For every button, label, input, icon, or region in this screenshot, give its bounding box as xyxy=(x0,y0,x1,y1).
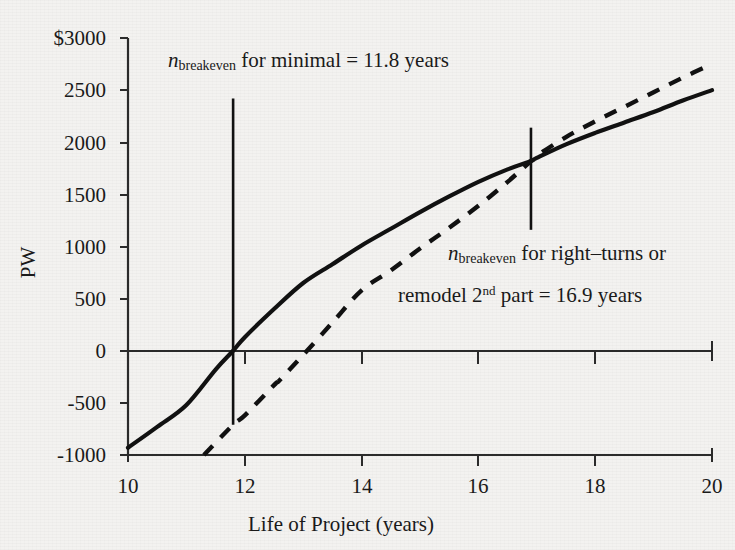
annotation2-line2-post: part = 16.9 years xyxy=(496,283,643,307)
annotation2-symbol-n: n xyxy=(448,241,459,265)
annotation-symbol-n: n xyxy=(168,48,179,72)
x-tick-label-14: 14 xyxy=(332,474,392,499)
annotation-subscript-breakeven: breakeven xyxy=(179,58,237,73)
annotation-breakeven-right-turns-line2: remodel 2nd part = 16.9 years xyxy=(398,285,642,306)
y-tick-label-neg1000: -1000 xyxy=(10,443,106,468)
x-baseline-endcaps xyxy=(128,448,712,466)
y-axis-title: PW xyxy=(16,223,41,303)
y-tick-label-neg500: -500 xyxy=(10,391,106,416)
annotation2-subscript-breakeven: breakeven xyxy=(459,251,517,266)
y-axis-ticks xyxy=(120,38,128,455)
x-tick-label-10: 10 xyxy=(98,474,158,499)
breakeven-chart-figure: $3000 2500 2000 1500 1000 500 0 -500 -10… xyxy=(0,0,735,550)
x-tick-label-16: 16 xyxy=(448,474,508,499)
y-tick-label-2500: 2500 xyxy=(10,78,106,103)
annotation-breakeven-minimal: nbreakeven for minimal = 11.8 years xyxy=(168,50,449,71)
x-tick-label-18: 18 xyxy=(565,474,625,499)
annotation2-ordinal-nd: nd xyxy=(483,283,496,298)
annotation-breakeven-right-turns-line1: nbreakeven for right–turns or xyxy=(448,243,666,264)
annotation2-line1-text: for right–turns or xyxy=(516,241,666,265)
x-axis-ticks xyxy=(128,341,712,364)
x-axis-title: Life of Project (years) xyxy=(248,512,434,537)
annotation-minimal-text: for minimal = 11.8 years xyxy=(236,48,449,72)
y-tick-label-1500: 1500 xyxy=(10,183,106,208)
y-tick-label-0: 0 xyxy=(10,339,106,364)
x-tick-label-20: 20 xyxy=(682,474,735,499)
y-tick-label-2000: 2000 xyxy=(10,131,106,156)
annotation2-line2-pre: remodel 2 xyxy=(398,283,483,307)
y-tick-label-3000: $3000 xyxy=(10,26,106,51)
series-minimal-curve xyxy=(128,90,712,448)
plot-canvas xyxy=(0,0,735,550)
x-tick-label-12: 12 xyxy=(215,474,275,499)
